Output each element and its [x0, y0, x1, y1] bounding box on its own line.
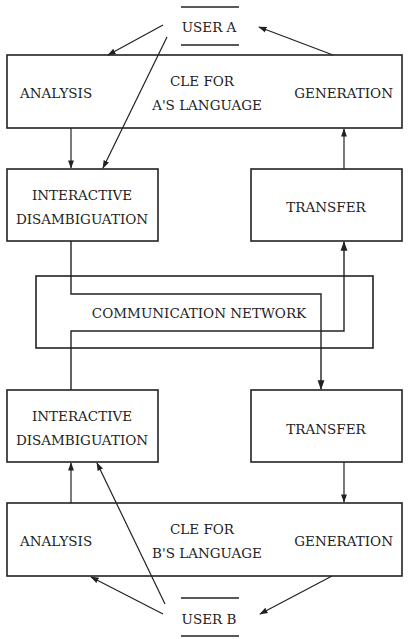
cle-b-title-line2: B'S LANGUAGE	[152, 545, 262, 561]
arrow-userb-to-disamb-b	[97, 463, 165, 604]
disamb-b-box: INTERACTIVE DISAMBIGUATION	[7, 390, 158, 462]
disamb-a-line2: DISAMBIGUATION	[16, 211, 148, 227]
translation-architecture-diagram: USER A ANALYSIS CLE FOR A'S LANGUAGE GEN…	[0, 0, 409, 639]
user-a-label: USER A	[182, 19, 237, 35]
transfer-a-label: TRANSFER	[286, 199, 366, 215]
user-b-label: USER B	[182, 611, 237, 627]
disamb-a-box: INTERACTIVE DISAMBIGUATION	[7, 169, 158, 241]
arrow-usera-to-analysis	[108, 25, 163, 55]
cle-b-analysis-label: ANALYSIS	[19, 533, 92, 549]
arrow-userb-to-analysis	[91, 577, 163, 614]
cle-b-generation-label: GENERATION	[294, 533, 393, 549]
communication-network-label: COMMUNICATION NETWORK	[92, 305, 307, 321]
arrow-generation-to-usera	[259, 27, 333, 55]
cle-a-box: ANALYSIS CLE FOR A'S LANGUAGE GENERATION	[7, 55, 402, 128]
user-a-node: USER A	[181, 7, 239, 45]
disamb-b-line1: INTERACTIVE	[32, 408, 132, 424]
cle-b-title-line1: CLE FOR	[170, 521, 235, 537]
transfer-b-box: TRANSFER	[251, 390, 402, 462]
cle-a-title-line2: A'S LANGUAGE	[151, 97, 262, 113]
communication-network-box: COMMUNICATION NETWORK	[36, 276, 373, 348]
cle-b-box: ANALYSIS CLE FOR B'S LANGUAGE GENERATION	[7, 503, 402, 576]
cle-a-analysis-label: ANALYSIS	[19, 85, 92, 101]
arrow-generation-to-userb	[260, 576, 332, 614]
transfer-a-box: TRANSFER	[251, 169, 402, 241]
cle-a-title-line1: CLE FOR	[170, 73, 235, 89]
disamb-b-line2: DISAMBIGUATION	[16, 432, 148, 448]
transfer-b-label: TRANSFER	[286, 421, 366, 437]
cle-a-generation-label: GENERATION	[294, 85, 393, 101]
user-b-node: USER B	[181, 598, 239, 636]
disamb-a-line1: INTERACTIVE	[32, 187, 132, 203]
